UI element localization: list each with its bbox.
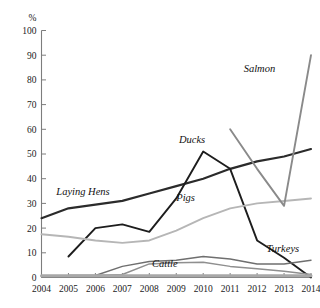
y-axis-tick-label: 0 — [32, 273, 37, 283]
series-label-ducks: Ducks — [178, 134, 205, 145]
series-label-laying-hens: Laying Hens — [55, 186, 109, 197]
x-axis-tick-label: 2004 — [32, 284, 51, 294]
y-axis-tick-label: 50 — [27, 149, 37, 159]
x-axis-tick-label: 2013 — [275, 284, 294, 294]
y-axis-tick-label: 60 — [27, 125, 37, 135]
series-label-turkeys: Turkeys — [267, 243, 300, 254]
x-axis-tick-label: 2009 — [167, 284, 186, 294]
x-axis-tick-label: 2008 — [140, 284, 159, 294]
series-label-salmon: Salmon — [244, 63, 276, 74]
y-axis-tick-label: 80 — [27, 75, 37, 85]
y-axis-tick-label: 70 — [27, 100, 37, 110]
y-axis-tick-label: 40 — [27, 174, 37, 184]
x-axis-tick-label: 2006 — [86, 284, 105, 294]
x-axis-tick-label: 2010 — [194, 284, 213, 294]
y-axis-tick-label: 30 — [27, 199, 37, 209]
x-axis-tick-label: 2012 — [248, 284, 267, 294]
y-axis-tick-label: 100 — [22, 26, 37, 36]
x-axis-tick-label: 2011 — [221, 284, 240, 294]
series-line-turkeys — [68, 257, 311, 276]
x-axis-tick-label: 2005 — [59, 284, 78, 294]
series-label-cattle: Cattle — [152, 258, 178, 269]
series-line-pigs — [42, 198, 312, 242]
series-line-laying-hens — [42, 149, 312, 218]
series-line-salmon — [230, 55, 311, 206]
x-axis-tick-label: 2007 — [113, 284, 132, 294]
y-axis-tick-label: 20 — [27, 224, 37, 234]
series-label-pigs: Pigs — [175, 192, 195, 203]
y-axis-tick-label: 90 — [27, 51, 37, 61]
y-axis-tick-label: 10 — [27, 248, 37, 258]
line-chart: %010203040506070809010020042005200620072… — [0, 0, 320, 308]
x-axis-tick-label: 2014 — [302, 284, 320, 294]
y-axis-unit-label: % — [29, 13, 37, 23]
chart-canvas: %010203040506070809010020042005200620072… — [0, 0, 320, 308]
